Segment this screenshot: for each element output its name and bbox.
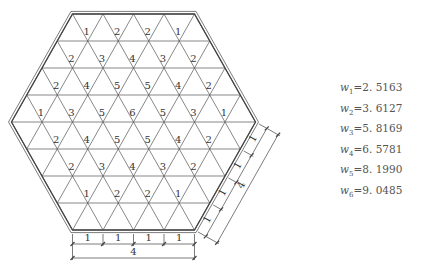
w-values-legend: w1=2. 5163 w2=3. 6127 w3=5. 8169 w4=6. 5… <box>340 80 402 204</box>
dimension-total-label: 4 <box>130 246 136 257</box>
node-value: 2 <box>114 188 120 199</box>
node-value: 2 <box>68 53 74 64</box>
node-value: 3 <box>190 107 196 118</box>
node-value: 1 <box>84 26 90 37</box>
node-value: 1 <box>175 26 181 37</box>
node-value: 4 <box>175 134 181 145</box>
node-value: 5 <box>145 80 151 91</box>
w-value-row: w1=2. 5163 <box>340 80 402 101</box>
node-value: 4 <box>175 80 181 91</box>
w-value-row: w4=6. 5781 <box>340 142 402 163</box>
node-value: 3 <box>160 53 166 64</box>
node-value: 4 <box>129 53 135 64</box>
w-value-row: w6=9. 0485 <box>340 183 402 204</box>
side-dimension-segment-label: 1 <box>246 133 259 144</box>
w-value-row: w5=8. 1990 <box>340 162 402 183</box>
node-value: 2 <box>206 134 212 145</box>
node-value: 2 <box>114 26 120 37</box>
node-value: 5 <box>114 134 120 145</box>
node-value: 2 <box>68 161 74 172</box>
node-value: 2 <box>145 188 151 199</box>
node-value: 1 <box>38 107 44 118</box>
node-value: 3 <box>99 53 105 64</box>
node-value: 5 <box>114 80 120 91</box>
triangular-grid <box>12 14 256 230</box>
node-value: 4 <box>129 161 135 172</box>
node-value: 4 <box>84 80 90 91</box>
side-dimension-segment-label: 1 <box>216 187 229 198</box>
node-value: 2 <box>145 26 151 37</box>
node-value-labels: 1221234322455421356531245542234321221 <box>38 26 227 199</box>
side-dimension-segment-label: 1 <box>231 160 244 171</box>
side-dimension-total-label: 4 <box>235 180 248 191</box>
node-value: 2 <box>53 80 59 91</box>
dimension-labels: 1111411114 <box>85 133 259 257</box>
dimension-segment-label: 1 <box>115 232 121 243</box>
node-value: 1 <box>175 188 181 199</box>
node-value: 1 <box>221 107 227 118</box>
side-dimension-segment-label: 1 <box>201 214 214 225</box>
node-value: 2 <box>190 161 196 172</box>
w-value-row: w3=5. 8169 <box>340 121 402 142</box>
node-value: 1 <box>84 188 90 199</box>
node-value: 3 <box>99 161 105 172</box>
node-value: 3 <box>160 161 166 172</box>
dimension-segment-label: 1 <box>85 232 91 243</box>
node-value: 4 <box>84 134 90 145</box>
dimension-segment-label: 1 <box>146 232 152 243</box>
node-value: 3 <box>68 107 74 118</box>
dimension-segment-label: 1 <box>176 232 182 243</box>
node-value: 2 <box>190 53 196 64</box>
node-value: 5 <box>99 107 105 118</box>
w-value-row: w2=3. 6127 <box>340 101 402 122</box>
node-value: 5 <box>145 134 151 145</box>
node-value: 6 <box>129 107 135 118</box>
node-value: 5 <box>160 107 166 118</box>
node-value: 2 <box>53 134 59 145</box>
node-value: 2 <box>206 80 212 91</box>
